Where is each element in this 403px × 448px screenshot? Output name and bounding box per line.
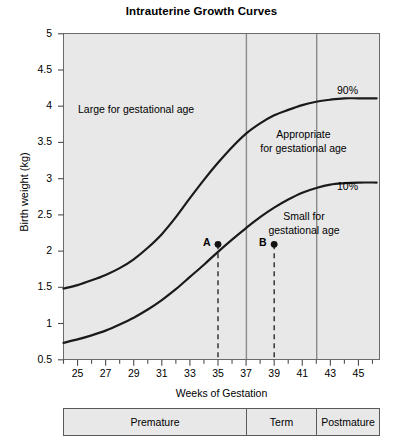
- x-tick-label-31: 31: [149, 367, 175, 379]
- plot-background: [64, 34, 380, 360]
- annotation-large-for-gestational-age: Large for gestational age: [78, 103, 194, 116]
- x-axis-title: Weeks of Gestation: [63, 387, 380, 399]
- stage-premature: Premature: [64, 409, 246, 435]
- annotation-small-line1: Small for: [245, 210, 363, 223]
- y-tick-label-1: 1: [18, 317, 52, 329]
- point-a-label: A: [203, 236, 211, 248]
- label-90-percentile: 90%: [337, 84, 358, 96]
- x-tick-label-29: 29: [121, 367, 147, 379]
- y-tick-label-2: 2: [18, 244, 52, 256]
- y-tick-label-3: 3: [18, 172, 52, 184]
- y-tick-label-3-5: 3.5: [18, 135, 52, 147]
- y-tick-label-2-5: 2.5: [18, 208, 52, 220]
- annotation-appropriate-line1: Appropriate: [241, 128, 366, 141]
- x-tick-label-39: 39: [261, 367, 287, 379]
- x-tick-label-27: 27: [93, 367, 119, 379]
- y-tick-label-4: 4: [18, 99, 52, 111]
- y-tick-label-0-5: 0.5: [18, 353, 52, 365]
- gestation-stage-bar: Premature Term Postmature: [63, 408, 380, 436]
- y-axis-ticks: [58, 34, 64, 360]
- x-tick-label-45: 45: [345, 367, 371, 379]
- intrauterine-growth-curves-figure: Intrauterine Growth Curves Birth weight …: [0, 0, 403, 448]
- data-point-b: [271, 241, 278, 248]
- x-tick-label-41: 41: [289, 367, 315, 379]
- x-tick-label-37: 37: [233, 367, 259, 379]
- label-10-percentile: 10%: [337, 180, 358, 192]
- stage-term: Term: [246, 409, 316, 435]
- y-tick-label-4-5: 4.5: [18, 63, 52, 75]
- x-axis-ticks: [64, 360, 373, 366]
- point-b-label: B: [259, 236, 267, 248]
- x-tick-label-33: 33: [177, 367, 203, 379]
- y-tick-label-5: 5: [18, 27, 52, 39]
- stage-postmature: Postmature: [316, 409, 379, 435]
- y-tick-label-1-5: 1.5: [18, 280, 52, 292]
- annotation-appropriate-line2: for gestational age: [241, 142, 366, 155]
- x-tick-label-25: 25: [65, 367, 91, 379]
- data-point-a: [215, 241, 222, 248]
- x-tick-label-43: 43: [317, 367, 343, 379]
- x-tick-label-35: 35: [205, 367, 231, 379]
